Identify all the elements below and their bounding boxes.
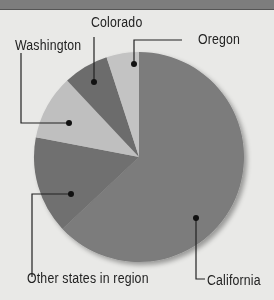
dot-other: [68, 191, 74, 197]
label-oregon: Oregon: [198, 31, 240, 47]
dot-oregon: [131, 61, 137, 67]
label-washington: Washington: [15, 37, 81, 53]
label-colorado: Colorado: [91, 14, 142, 30]
dot-california: [193, 215, 199, 221]
label-california: California: [207, 272, 261, 288]
dot-washington: [66, 120, 72, 126]
dot-colorado: [91, 79, 97, 85]
label-other-states: Other states in region: [27, 270, 149, 286]
